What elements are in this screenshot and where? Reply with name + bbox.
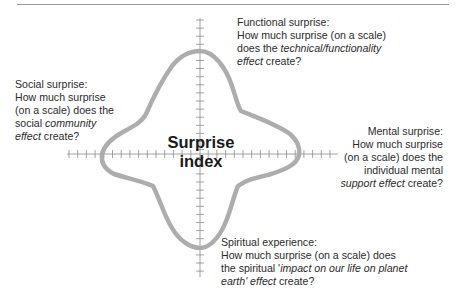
spiritual-line4-suffix: create?	[276, 275, 314, 287]
social-line5: effect create?	[15, 130, 114, 143]
spiritual-line3-italic: impact on our life on planet	[280, 262, 407, 274]
functional-line3-prefix: does the	[237, 42, 281, 54]
social-title: Social surprise:	[15, 78, 114, 91]
functional-surprise-label: Functional surprise: How much surprise (…	[237, 16, 386, 68]
social-line3: (on a scale) does the	[15, 104, 114, 117]
spiritual-experience-label: Spiritual experience: How much surprise …	[221, 236, 407, 288]
mental-line3: (on a scale) does the	[341, 151, 443, 164]
mental-line5: support effect create?	[341, 177, 443, 190]
spiritual-line3-prefix: the spiritual '	[221, 262, 280, 274]
mental-line5-suffix: create?	[405, 177, 443, 189]
spiritual-line2: How much surprise (on a scale) does	[221, 249, 407, 262]
functional-line4: effect create?	[237, 55, 386, 68]
spiritual-title: Spiritual experience:	[221, 236, 407, 249]
social-line4-prefix: social	[15, 117, 45, 129]
social-line4-italic: community	[45, 117, 96, 129]
spiritual-line3: the spiritual 'impact on our life on pla…	[221, 262, 407, 275]
spiritual-line4-italic: earth' effect	[221, 275, 276, 287]
functional-line3-italic: technical/functionality	[281, 42, 382, 54]
mental-surprise-label: Mental surprise: How much surprise (on a…	[341, 125, 443, 190]
mental-line4: individual mental	[341, 164, 443, 177]
center-title-line2: index	[146, 152, 256, 171]
functional-title: Functional surprise:	[237, 16, 386, 29]
mental-line5-italic: support effect	[341, 177, 405, 189]
functional-line4-suffix: create?	[263, 55, 301, 67]
center-title: Surprise index	[146, 133, 256, 171]
social-line2: How much surprise	[15, 91, 114, 104]
social-line4: social community	[15, 117, 114, 130]
social-line5-italic: effect	[15, 130, 41, 142]
spiritual-line4: earth' effect create?	[221, 275, 407, 288]
mental-title: Mental surprise:	[341, 125, 443, 138]
functional-line2: How much surprise (on a scale)	[237, 29, 386, 42]
functional-line3: does the technical/functionality	[237, 42, 386, 55]
center-title-line1: Surprise	[146, 133, 256, 152]
social-line5-suffix: create?	[41, 130, 79, 142]
social-surprise-label: Social surprise: How much surprise (on a…	[15, 78, 114, 143]
functional-line4-italic: effect	[237, 55, 263, 67]
mental-line2: How much surprise	[341, 138, 443, 151]
